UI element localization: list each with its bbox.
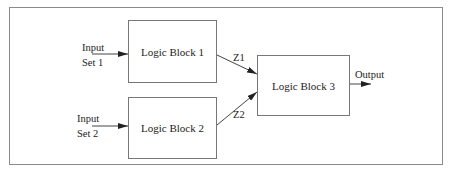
connector-layer bbox=[0, 0, 452, 171]
z1-label: Z1 bbox=[233, 53, 245, 64]
input-set-2-label-line1: Input bbox=[77, 114, 99, 125]
input-set-2-label-line2: Set 2 bbox=[77, 129, 98, 140]
z2-label: Z2 bbox=[233, 110, 245, 121]
logic-block-1-label: Logic Block 1 bbox=[141, 46, 204, 58]
logic-block-3: Logic Block 3 bbox=[257, 55, 350, 116]
logic-block-3-label: Logic Block 3 bbox=[272, 80, 335, 92]
output-label: Output bbox=[355, 70, 384, 81]
logic-block-1: Logic Block 1 bbox=[128, 20, 217, 83]
input-set-1-label-line1: Input bbox=[82, 43, 104, 54]
input-set-1-label-line2: Set 1 bbox=[82, 58, 103, 69]
logic-block-2-label: Logic Block 2 bbox=[141, 122, 204, 134]
logic-block-2: Logic Block 2 bbox=[128, 97, 217, 159]
